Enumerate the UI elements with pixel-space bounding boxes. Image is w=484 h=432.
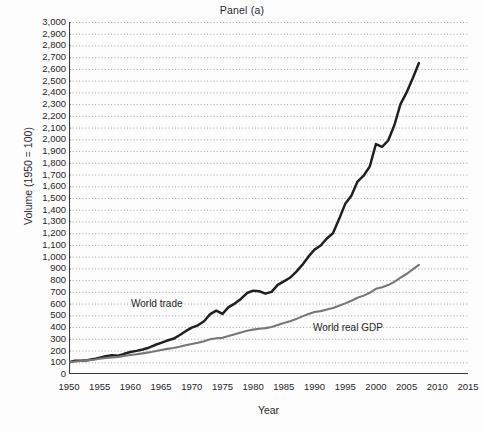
series-label-world-trade: World trade xyxy=(131,298,183,309)
axis-lines xyxy=(70,22,469,374)
x-tick-label: 2015 xyxy=(448,381,484,392)
x-axis-title: Year xyxy=(69,404,468,416)
y-axis-title: Volume (1950 = 100) xyxy=(22,76,34,276)
chart-svg xyxy=(69,22,468,374)
chart-figure: Panel (a) 01002003004005006007008009001,… xyxy=(0,0,484,432)
gridlines xyxy=(70,23,469,363)
data-series xyxy=(69,63,419,362)
series-label-world-real-gdp: World real GDP xyxy=(313,322,383,333)
plot-area xyxy=(69,22,468,374)
